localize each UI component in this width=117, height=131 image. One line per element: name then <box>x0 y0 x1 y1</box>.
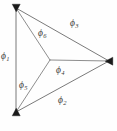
vertex-marker-right <box>105 57 113 65</box>
vertex-marker-bottom-left <box>12 108 20 116</box>
edge-label-phi2-subscript: 2 <box>63 99 66 106</box>
edge-label-phi4-subscript: 4 <box>61 69 64 76</box>
edge-label-phi6: ϕ6 <box>38 29 46 39</box>
edge-label-phi2: ϕ2 <box>58 96 66 106</box>
edge-label-phi3: ϕ3 <box>70 19 78 29</box>
edge-phi4-line <box>50 60 109 61</box>
edge-label-phi4: ϕ4 <box>56 66 64 76</box>
edge-label-phi6-subscript: 6 <box>43 32 46 39</box>
edge-label-phi3-subscript: 3 <box>75 22 78 29</box>
vertex-marker-top-left <box>12 4 20 12</box>
diagram-canvas: ϕ1 ϕ2 ϕ3 ϕ4 ϕ5 ϕ6 <box>0 0 117 131</box>
edge-label-phi5: ϕ5 <box>19 81 27 91</box>
edge-label-phi1-subscript: 1 <box>6 55 9 62</box>
edge-label-phi1: ϕ1 <box>1 52 9 62</box>
edge-label-phi5-subscript: 5 <box>24 84 27 91</box>
edge-phi3-line <box>16 8 109 61</box>
